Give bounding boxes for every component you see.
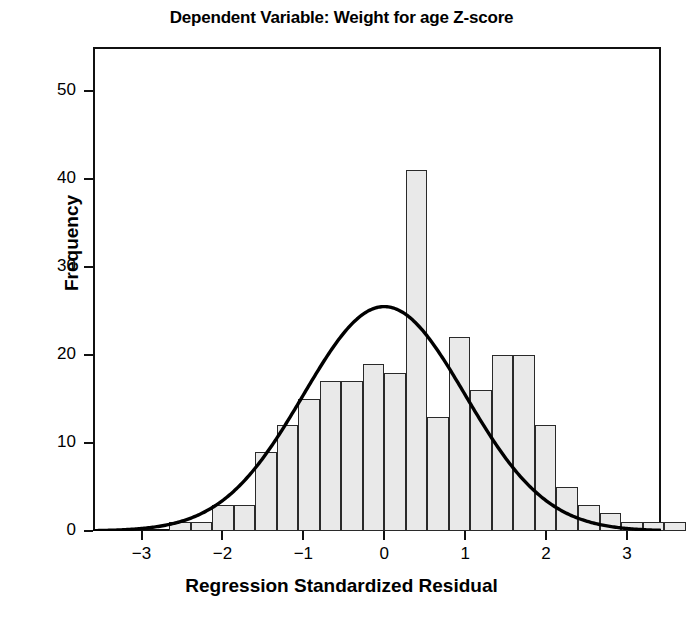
- histogram-bar: [427, 417, 449, 531]
- x-tick-label: 1: [445, 544, 485, 564]
- histogram-bar: [212, 505, 234, 531]
- histogram-bar: [556, 487, 578, 531]
- x-tick-label: 2: [526, 544, 566, 564]
- histogram-bar: [513, 355, 535, 531]
- y-tick-mark: [84, 90, 93, 92]
- x-tick-label: −3: [122, 544, 162, 564]
- y-tick-mark: [84, 178, 93, 180]
- y-tick-label: 50: [36, 80, 76, 100]
- x-tick-mark: [464, 531, 466, 540]
- histogram-bar: [320, 381, 342, 531]
- histogram-bar: [470, 390, 492, 531]
- histogram-bar: [621, 522, 643, 531]
- y-axis-label: Frequency: [61, 143, 83, 343]
- y-tick-mark: [84, 530, 93, 532]
- histogram-bar: [535, 425, 557, 531]
- plot-area: [93, 47, 661, 531]
- y-tick-label: 0: [36, 520, 76, 540]
- histogram-bar: [234, 505, 256, 531]
- histogram-bar: [277, 425, 299, 531]
- y-tick-mark: [84, 354, 93, 356]
- histogram-bar: [406, 170, 428, 531]
- x-tick-mark: [545, 531, 547, 540]
- x-tick-mark: [383, 531, 385, 540]
- x-tick-label: −1: [283, 544, 323, 564]
- chart-title: Dependent Variable: Weight for age Z-sco…: [0, 8, 683, 28]
- y-tick-label: 10: [36, 432, 76, 452]
- histogram-bar: [363, 364, 385, 531]
- y-tick-mark: [84, 442, 93, 444]
- x-tick-mark: [302, 531, 304, 540]
- x-tick-label: −2: [202, 544, 242, 564]
- histogram-bar: [341, 381, 363, 531]
- x-axis-label: Regression Standardized Residual: [0, 575, 683, 597]
- histogram-bar: [600, 513, 622, 531]
- histogram-bar: [449, 337, 471, 531]
- x-tick-label: 0: [364, 544, 404, 564]
- x-tick-mark: [221, 531, 223, 540]
- x-tick-mark: [141, 531, 143, 540]
- histogram-bar: [191, 522, 213, 531]
- histogram-bar: [492, 355, 514, 531]
- y-tick-mark: [84, 266, 93, 268]
- histogram-bar: [298, 399, 320, 531]
- histogram-bar: [578, 505, 600, 531]
- x-tick-label: 3: [607, 544, 647, 564]
- histogram-bar: [384, 373, 406, 531]
- histogram-bar: [169, 522, 191, 531]
- y-tick-label: 20: [36, 344, 76, 364]
- histogram-bar: [643, 522, 665, 531]
- x-tick-mark: [626, 531, 628, 540]
- histogram-bar: [255, 452, 277, 531]
- histogram-bar: [664, 522, 686, 531]
